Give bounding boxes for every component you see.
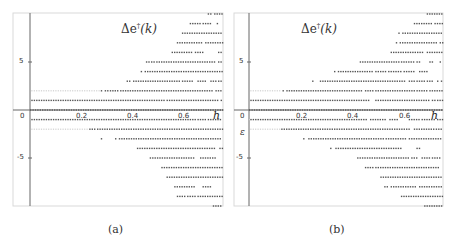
y-tick-neg5: -5 <box>17 154 24 161</box>
plot-title-b: Δe†(k) <box>301 22 337 36</box>
plot-title-a: Δe†(k) <box>121 22 157 36</box>
caption-b: (b) <box>329 224 345 235</box>
x-tick-0.6: 0.6 <box>399 113 410 120</box>
epsilon-label: ε <box>240 128 245 137</box>
title-arg: (k) <box>320 22 337 36</box>
title-arg: (k) <box>140 22 157 36</box>
y-tick-5: 5 <box>239 58 243 65</box>
x-tick-0.2: 0.2 <box>296 113 307 120</box>
x-tick-0.4: 0.4 <box>347 113 358 120</box>
x-tick-0.4: 0.4 <box>127 113 138 120</box>
title-main: Δe <box>121 22 137 36</box>
title-main: Δe <box>301 22 317 36</box>
dot-rows <box>30 13 223 206</box>
caption-a: (a) <box>108 224 123 235</box>
y-tick-neg5: -5 <box>236 154 243 161</box>
x-axis-label-h: h <box>431 110 438 121</box>
plot-b <box>230 0 460 240</box>
y-tick-5: 5 <box>19 58 23 65</box>
x-tick-0.2: 0.2 <box>76 113 87 120</box>
panel-a: Δe†(k) 5 0 -5 0.2 0.4 0.6 h (a) <box>0 0 230 240</box>
x-tick-0.6: 0.6 <box>178 113 189 120</box>
y-tick-0: 0 <box>20 113 24 120</box>
x-axis-label-h: h <box>213 110 220 121</box>
plot-a <box>0 0 230 240</box>
panel-b: Δe†(k) 5 0 ε -5 0.2 0.4 0.6 h (b) <box>230 0 460 240</box>
y-tick-0: 0 <box>240 113 244 120</box>
